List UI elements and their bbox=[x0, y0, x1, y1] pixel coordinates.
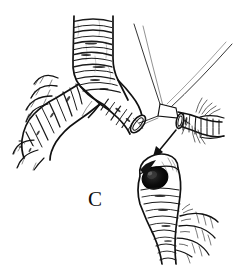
surgical-illustration bbox=[0, 0, 243, 269]
figure-root: RESECTION bbox=[0, 0, 243, 269]
panel-label: C bbox=[78, 187, 112, 212]
